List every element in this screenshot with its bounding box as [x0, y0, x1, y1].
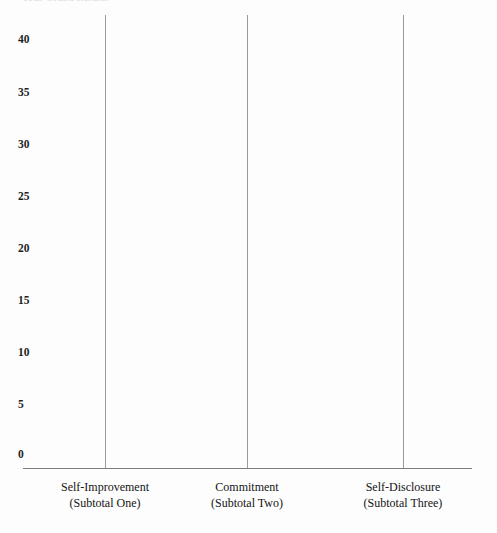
category-gridline-2 [247, 15, 248, 468]
x-category-name: Commitment [162, 479, 332, 495]
x-axis-baseline [23, 468, 472, 469]
graph-worksheet-page: Your Graph Results 40 35 30 25 20 15 10 … [0, 0, 497, 533]
x-category-sublabel: (Subtotal Three) [318, 495, 488, 511]
x-category-name: Self-Disclosure [318, 479, 488, 495]
x-category-label-3: Self-Disclosure (Subtotal Three) [318, 479, 488, 511]
x-category-sublabel: (Subtotal Two) [162, 495, 332, 511]
plot-area[interactable] [23, 15, 472, 468]
category-gridline-1 [105, 15, 106, 468]
x-category-label-2: Commitment (Subtotal Two) [162, 479, 332, 511]
category-gridline-3 [403, 15, 404, 468]
